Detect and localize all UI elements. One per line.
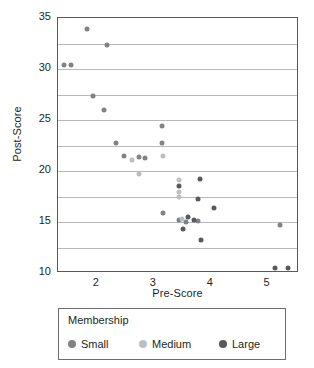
data-point — [180, 216, 185, 221]
y-axis-title: Post-Score — [11, 94, 23, 174]
legend-title: Membership — [68, 314, 129, 326]
data-point — [160, 141, 165, 146]
data-point — [113, 141, 118, 146]
legend-entry-small[interactable]: Small — [68, 335, 109, 353]
data-point — [191, 217, 196, 222]
data-point — [185, 214, 190, 219]
y-tick-label: 15 — [27, 214, 51, 226]
data-point — [177, 194, 182, 199]
gridline — [58, 248, 297, 249]
data-point — [161, 210, 166, 215]
data-point — [143, 155, 148, 160]
data-point — [85, 27, 90, 32]
data-point — [160, 124, 165, 129]
legend-marker-icon — [68, 340, 76, 348]
legend-marker-icon — [139, 340, 147, 348]
gridline — [58, 44, 297, 45]
gridline — [58, 171, 297, 172]
gridline — [58, 69, 297, 70]
data-point — [176, 178, 181, 183]
data-point — [195, 196, 200, 201]
y-tick-label: 35 — [27, 10, 51, 22]
data-point — [122, 153, 127, 158]
y-tick-label: 25 — [27, 112, 51, 124]
data-point — [278, 223, 283, 228]
legend-entry-label: Large — [232, 338, 260, 350]
legend-entry-medium[interactable]: Medium — [139, 335, 191, 353]
data-point — [211, 205, 216, 210]
data-point — [61, 62, 66, 67]
y-tick-label: 20 — [27, 163, 51, 175]
legend-entry-label: Medium — [152, 338, 191, 350]
plot-area — [57, 17, 298, 272]
x-axis-title: Pre-Score — [57, 287, 298, 299]
y-tick-label: 30 — [27, 61, 51, 73]
data-point — [181, 227, 186, 232]
y-tick-label: 10 — [27, 265, 51, 277]
legend-entry-label: Small — [81, 338, 109, 350]
data-point — [199, 238, 204, 243]
data-point — [130, 157, 135, 162]
gridline — [58, 120, 297, 121]
data-point — [90, 93, 95, 98]
gridline — [58, 146, 297, 147]
data-point — [198, 177, 203, 182]
data-point — [136, 172, 141, 177]
legend-marker-icon — [219, 340, 227, 348]
scatter-plot-figure: Post-Score 101520253035 2345 Pre-Score M… — [0, 0, 314, 368]
data-point — [160, 153, 165, 158]
data-point — [176, 184, 181, 189]
data-point — [272, 265, 277, 270]
data-point — [104, 42, 109, 47]
legend-box: Membership SmallMediumLarge — [58, 308, 286, 360]
data-point — [101, 107, 106, 112]
legend-entry-large[interactable]: Large — [219, 335, 260, 353]
data-point — [196, 218, 201, 223]
data-point — [68, 62, 73, 67]
data-point — [137, 154, 142, 159]
data-point — [286, 265, 291, 270]
